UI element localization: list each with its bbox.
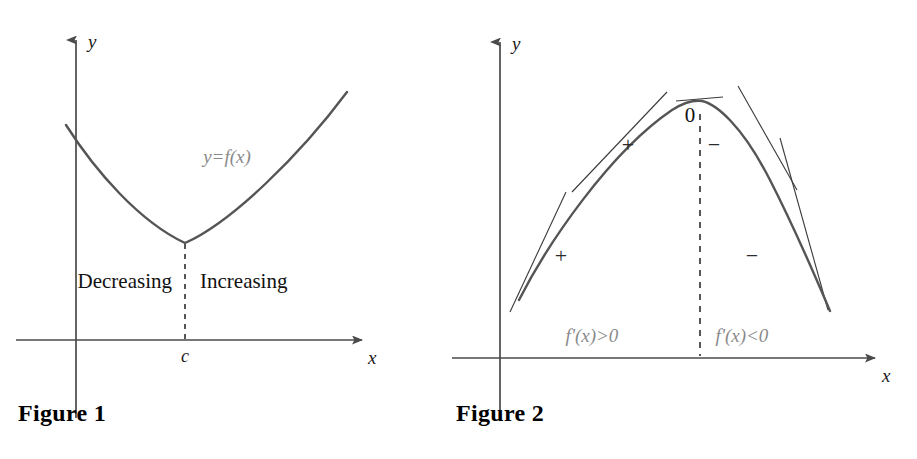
sign-minus-upper: − [708,132,720,157]
x-axis-label: x [881,365,891,386]
figure-2-caption: Figure 2 [456,400,544,427]
y-axis-label: y [86,31,97,52]
function-curve [519,101,830,311]
x-axis-label: x [367,347,377,368]
figure-1-graphic: y x y=f(x) c Decreasing Increasing [0,0,460,459]
curve-equation-label: y=f(x) [201,146,251,168]
critical-point-label-c: c [181,346,189,366]
region-label-increasing: Increasing [200,269,288,293]
region-label-decreasing: Decreasing [78,269,173,293]
derivative-negative-label: f'(x)<0 [716,325,769,347]
figure-2-panel: y x 0 + + − − f'(x)>0 f'(x)<0 Figure 2 [440,0,917,459]
y-axis-label: y [510,33,521,54]
sign-minus-lower: − [746,243,758,268]
function-curve [66,92,347,243]
slope-zero-label: 0 [685,103,696,127]
tangent-line-right-lower [780,138,828,310]
figure-1-caption: Figure 1 [18,400,106,427]
derivative-positive-label: f'(x)>0 [566,325,619,347]
sign-plus-upper: + [622,132,634,157]
figure-2-graphic: y x 0 + + − − f'(x)>0 f'(x)<0 [440,0,917,459]
tangent-line-left-upper [572,92,667,192]
figure-1-panel: y x y=f(x) c Decreasing Increasing Figur… [0,0,460,459]
sign-plus-lower: + [555,243,567,268]
